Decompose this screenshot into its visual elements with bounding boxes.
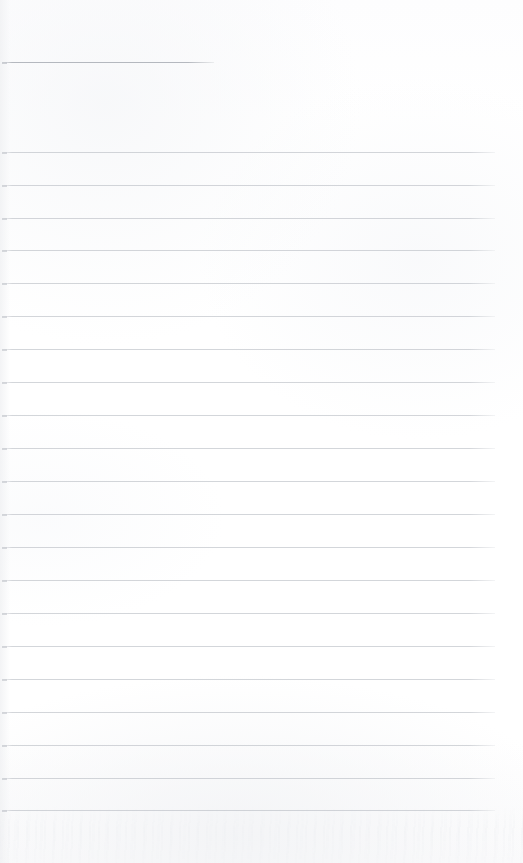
rule-start-nib [2,547,7,549]
rule-4 [2,250,495,251]
rule-21 [2,810,495,811]
rule-start-nib [2,810,7,812]
rule-start-nib [2,646,7,648]
rule-start-nib [2,613,7,615]
rule-9 [2,415,495,416]
rule-6 [2,316,495,317]
rule-7 [2,349,495,350]
rule-start-nib [2,316,7,318]
rule-1 [2,152,495,153]
header-rule [2,62,214,63]
notebook-page [0,0,523,863]
rule-2 [2,185,495,186]
rule-16 [2,646,495,647]
rule-10 [2,448,495,449]
rule-13 [2,547,495,548]
rule-18 [2,712,495,713]
rule-start-nib [2,679,7,681]
rule-start-nib [2,745,7,747]
rule-start-nib [2,283,7,285]
rule-11 [2,481,495,482]
rule-start-nib [2,349,7,351]
rule-start-nib [2,382,7,384]
rule-8 [2,382,495,383]
rule-start-nib [2,514,7,516]
writing-area[interactable] [0,0,523,863]
rule-start-nib [2,152,7,154]
rule-start-nib [2,185,7,187]
rule-start-nib [2,448,7,450]
rule-start-nib [2,712,7,714]
rule-12 [2,514,495,515]
rule-start-nib [2,778,7,780]
rule-start-nib [2,580,7,582]
rule-start-nib [2,250,7,252]
rule-3 [2,218,495,219]
rule-5 [2,283,495,284]
rule-19 [2,745,495,746]
rule-start-nib [2,218,7,220]
rule-start-nib [2,481,7,483]
rule-20 [2,778,495,779]
rule-15 [2,613,495,614]
rule-start-nib [2,62,7,64]
rule-17 [2,679,495,680]
rule-start-nib [2,415,7,417]
rule-14 [2,580,495,581]
